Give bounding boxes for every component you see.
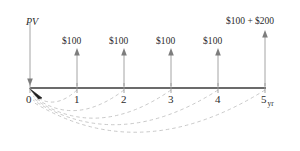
- cash-flow-arrow-period-2: [121, 48, 127, 86]
- pv-label: PV: [26, 16, 38, 27]
- tick-label-5: 5: [261, 93, 267, 105]
- cash-flow-label-period-3: $100: [156, 36, 175, 46]
- time-value-of-money-diagram: PV $100 $100 $100 $100 $100 + $200 0 1 2…: [0, 0, 300, 151]
- tick-label-4: 4: [215, 93, 221, 105]
- discount-arc-period-3: [33, 90, 171, 118]
- discount-arc-group: [33, 90, 265, 132]
- tick-label-5-group: 5yr: [261, 93, 273, 105]
- tick-label-3: 3: [168, 93, 174, 105]
- cash-flow-arrow-period-3: [168, 48, 174, 86]
- tick-label-1: 1: [74, 93, 80, 105]
- cash-flow-label-period-1: $100: [62, 36, 81, 46]
- tick-label-0: 0: [26, 93, 32, 105]
- axis-unit-label: yr: [268, 99, 274, 108]
- cash-flow-arrow-period-1: [74, 48, 80, 86]
- cash-flow-arrow-period-4: [215, 48, 221, 86]
- discount-arc-period-5: [33, 90, 265, 132]
- cash-flow-label-period-4: $100: [203, 36, 222, 46]
- cash-flow-arrow-period-5: [262, 30, 268, 86]
- pv-arrow: [27, 22, 33, 86]
- tick-label-2: 2: [121, 93, 127, 105]
- cash-flow-label-period-2: $100: [109, 36, 128, 46]
- cash-flow-label-period-5: $100 + $200: [226, 16, 274, 26]
